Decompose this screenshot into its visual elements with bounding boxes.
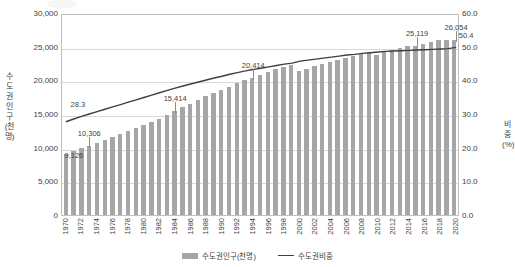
x-axis-tick: 1984 bbox=[170, 217, 178, 247]
legend-label: 수도권인구(천명) bbox=[202, 250, 256, 261]
y-axis-right-tick-label: 20.0 bbox=[462, 144, 478, 153]
x-axis-tick bbox=[412, 217, 420, 247]
y-axis-left-tick-label: 25,000 bbox=[34, 43, 58, 52]
x-axis-tick: 1994 bbox=[248, 217, 256, 247]
x-axis-tick: 2014 bbox=[404, 217, 412, 247]
x-axis-tick: 1990 bbox=[217, 217, 225, 247]
leader-line bbox=[175, 102, 176, 113]
x-axis-tick: 2000 bbox=[295, 217, 303, 247]
y-axis-left-title: 수도권인구(천명) bbox=[4, 72, 15, 142]
x-axis-tick: 1996 bbox=[264, 217, 272, 247]
y-axis-right-tick-label: 50.0 bbox=[462, 43, 478, 52]
chart-legend: 수도권인구(천명)수도권비중 bbox=[0, 250, 515, 261]
y-axis-right-tick-label: 30.0 bbox=[462, 110, 478, 119]
leader-line bbox=[253, 69, 254, 80]
x-axis-tick: 1998 bbox=[279, 217, 287, 247]
x-axis-tick: 1974 bbox=[92, 217, 100, 247]
y-axis-left-ticks: 30,00025,00020,00015,00010,0005,0000 bbox=[18, 0, 58, 267]
y-axis-right-tick-label: 60.0 bbox=[462, 9, 478, 18]
legend-bar-swatch-icon bbox=[182, 253, 198, 259]
y-axis-right-tick-label: 40.0 bbox=[462, 76, 478, 85]
data-label: 9,126 bbox=[65, 151, 84, 160]
x-axis-tick: 1982 bbox=[155, 217, 163, 247]
x-axis-tick: 2004 bbox=[326, 217, 334, 247]
chart-container: 수도권인구(천명) 비중(%) 30,00025,00020,00015,000… bbox=[0, 0, 515, 267]
y-axis-left-tick-label: 15,000 bbox=[34, 110, 58, 119]
x-axis-tick: 1980 bbox=[139, 217, 147, 247]
leader-line bbox=[89, 137, 90, 148]
data-label: 50.4 bbox=[459, 31, 474, 40]
x-axis-tick: 2006 bbox=[342, 217, 350, 247]
x-axis-tick: 1976 bbox=[108, 217, 116, 247]
x-axis-labels: 1970197219741976197819801982198419861988… bbox=[61, 217, 459, 247]
y-axis-right-tick-label: 10.0 bbox=[462, 177, 478, 186]
y-axis-left-tick-label: 30,000 bbox=[34, 9, 58, 18]
x-axis-tick: 1986 bbox=[186, 217, 194, 247]
x-axis-tick: 1970 bbox=[61, 217, 69, 247]
x-axis-tick: 2020 bbox=[451, 217, 459, 247]
legend-item[interactable]: 수도권비중 bbox=[278, 250, 333, 261]
legend-item[interactable]: 수도권인구(천명) bbox=[182, 250, 256, 261]
x-axis-tick: 2008 bbox=[357, 217, 365, 247]
legend-line-swatch-icon bbox=[278, 255, 294, 256]
plot-area: 28.39,12610,30615,41420,41425,11926,0545… bbox=[61, 14, 459, 216]
legend-label: 수도권비중 bbox=[298, 250, 333, 261]
y-axis-right-title: 비중(%) bbox=[502, 120, 513, 150]
y-axis-left-tick-label: 20,000 bbox=[34, 76, 58, 85]
x-axis-tick: 1972 bbox=[77, 217, 85, 247]
x-axis-tick: 1992 bbox=[233, 217, 241, 247]
leader-line bbox=[456, 31, 457, 42]
x-axis-tick: 2018 bbox=[435, 217, 443, 247]
x-axis-tick: 2002 bbox=[311, 217, 319, 247]
y-axis-right-tick-label: 0.0 bbox=[462, 211, 473, 220]
x-axis-tick: 2010 bbox=[373, 217, 381, 247]
leader-line bbox=[417, 37, 418, 48]
line-series bbox=[62, 15, 460, 217]
x-axis-tick: 1988 bbox=[201, 217, 209, 247]
y-axis-left-tick-label: 10,000 bbox=[34, 144, 58, 153]
data-label: 28.3 bbox=[71, 100, 86, 109]
y-axis-left-tick-label: 5,000 bbox=[38, 177, 58, 186]
trend-line bbox=[66, 47, 456, 121]
y-axis-left-tick-label: 0 bbox=[54, 211, 58, 220]
x-axis-tick: 2016 bbox=[420, 217, 428, 247]
x-axis-tick-label: 2020 bbox=[450, 218, 459, 235]
x-axis-tick: 2012 bbox=[388, 217, 396, 247]
x-axis-tick: 1978 bbox=[123, 217, 131, 247]
